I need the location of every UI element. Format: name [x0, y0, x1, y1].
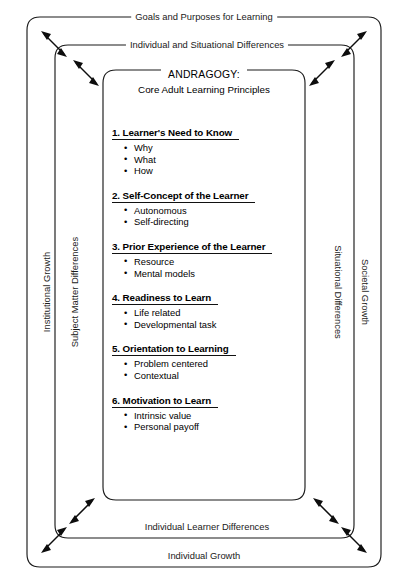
- principle-heading: 5. Orientation to Learning: [112, 343, 236, 356]
- arrow-middle-inner-top-left: [73, 60, 99, 86]
- core-principles-list: 1. Learner's Need to KnowWhyWhatHow2. Se…: [112, 122, 302, 441]
- principle-heading: 1. Learner's Need to Know: [112, 127, 239, 140]
- outer-layer-right-label: Societal Growth: [360, 259, 371, 325]
- principle-heading: 4. Readiness to Learn: [112, 292, 218, 305]
- andragogy-diagram: Goals and Purposes for Learning Institut…: [0, 0, 408, 581]
- inner-layer-title: ANDRAGOGY: Core Adult Learning Principle…: [104, 64, 304, 95]
- outer-layer-left-label: Institutional Growth: [41, 252, 52, 332]
- principle-block: 1. Learner's Need to KnowWhyWhatHow: [112, 122, 302, 177]
- middle-layer-right-label: Situational Differences: [333, 245, 344, 339]
- principle-item-list: Life relatedDevelopmental task: [112, 307, 302, 330]
- principle-item: Self-directing: [112, 216, 302, 228]
- arrow-middle-inner-bottom-left: [69, 498, 95, 524]
- arrow-middle-inner-bottom-right: [313, 498, 339, 524]
- inner-layer-title-line1: ANDRAGOGY:: [161, 69, 247, 80]
- principle-block: 2. Self-Concept of the LearnerAutonomous…: [112, 185, 302, 228]
- principle-item: Life related: [112, 307, 302, 319]
- arrow-outer-middle-bottom-right: [341, 527, 367, 553]
- principle-item: Intrinsic value: [112, 410, 302, 422]
- middle-layer-left-label: Subject Matter Differences: [69, 237, 80, 347]
- middle-layer-top-label: Individual and Situational Differences: [126, 39, 288, 50]
- principle-item: Problem centered: [112, 358, 302, 370]
- principle-block: 3. Prior Experience of the LearnerResour…: [112, 236, 302, 279]
- principle-heading: 3. Prior Experience of the Learner: [112, 241, 272, 254]
- principle-item: Mental models: [112, 268, 302, 280]
- principle-item: Developmental task: [112, 319, 302, 331]
- principle-item-list: Problem centeredContextual: [112, 358, 302, 381]
- inner-layer-title-line2: Core Adult Learning Principles: [104, 84, 304, 95]
- principle-item-list: AutonomousSelf-directing: [112, 205, 302, 228]
- outer-layer-top-label: Goals and Purposes for Learning: [131, 11, 277, 22]
- principle-item: Why: [112, 142, 302, 154]
- principle-item: Personal payoff: [112, 421, 302, 433]
- principle-block: 5. Orientation to LearningProblem center…: [112, 338, 302, 381]
- principle-item-list: Intrinsic valuePersonal payoff: [112, 410, 302, 433]
- principle-item-list: WhyWhatHow: [112, 142, 302, 177]
- arrow-outer-middle-top-left: [41, 31, 67, 57]
- principle-item: Contextual: [112, 370, 302, 382]
- principle-item-list: ResourceMental models: [112, 256, 302, 279]
- arrow-outer-middle-bottom-left: [41, 527, 67, 553]
- principle-item: Autonomous: [112, 205, 302, 217]
- outer-layer-bottom-label: Individual Growth: [168, 550, 240, 561]
- principle-item: How: [112, 165, 302, 177]
- middle-layer-bottom-label: Individual Learner Differences: [145, 521, 269, 532]
- principle-block: 4. Readiness to LearnLife relatedDevelop…: [112, 287, 302, 330]
- principle-heading: 2. Self-Concept of the Learner: [112, 190, 255, 203]
- principle-item: Resource: [112, 256, 302, 268]
- principle-heading: 6. Motivation to Learn: [112, 395, 218, 408]
- arrow-middle-inner-top-right: [309, 60, 335, 86]
- principle-item: What: [112, 154, 302, 166]
- principle-block: 6. Motivation to LearnIntrinsic valuePer…: [112, 390, 302, 433]
